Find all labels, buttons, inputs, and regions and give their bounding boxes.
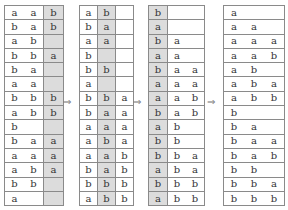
table-cell: a [244,134,264,148]
table-cell: b [224,106,245,120]
table-row: aba [80,134,134,148]
table-cell: b [168,177,187,191]
arrow-icon: ⇒ [133,96,141,107]
table-cell: b [244,191,264,205]
table-cell [264,120,285,134]
table-cell: a [5,6,25,20]
table-cell [44,77,64,91]
table-row: b [149,6,205,20]
table-cell: b [168,148,187,162]
table-cell: a [98,120,116,134]
table-cell [186,120,205,134]
table-cell: b [168,120,187,134]
table-cell: b [224,134,245,148]
table-cell: a [186,77,205,91]
table-cell: a [224,34,245,48]
table-step-2: abbaaabbbabbabaaaaaabaaabbabbbbabb [79,5,134,206]
table-cell: b [98,63,116,77]
table-cell: a [186,148,205,162]
table-cell: a [24,6,44,20]
table-cell: b [168,191,187,205]
table-cell: b [186,191,205,205]
table-cell: a [44,134,64,148]
table-cell: a [244,34,264,48]
table-cell [168,6,187,20]
table-cell: b [44,106,64,120]
table-cell [44,177,64,191]
table-row: abb [224,91,285,105]
table-cell: a [5,191,25,205]
table-cell: a [80,34,98,48]
table-row: aba [149,163,205,177]
table-cell: b [149,148,168,162]
table-cell: a [24,20,44,34]
table-cell: b [80,20,98,34]
table-step-4-sorted: aaaaaaaabababaabbbbabaababbbbbabbb [223,5,285,206]
table-cell: a [149,77,168,91]
table-row: ab [80,6,134,20]
table-cell: b [186,106,205,120]
table-cell [24,120,44,134]
table-cell: b [186,91,205,105]
table-step-1: aabbababbbabaaabbbabbbbaaaaaababba [4,5,64,206]
table-cell: a [116,91,134,105]
table-cell: b [224,120,245,134]
table-cell: b [24,91,44,105]
table-cell: a [224,63,245,77]
table-cell: a [149,191,168,205]
table-row: abb [5,106,64,120]
table-cell [186,6,205,20]
table-cell: b [80,91,98,105]
table-cell: a [5,34,25,48]
table-row: aaa [5,148,64,162]
table-row: bab [80,163,134,177]
table-cell [98,77,116,91]
table-step-3: babaaabaaaaaaabbababbbbbaababbbabb [148,5,205,206]
table-cell [44,191,64,205]
table-cell: a [80,77,98,91]
table-cell [186,48,205,62]
table-cell: a [80,148,98,162]
table-row: aab [224,48,285,62]
table-cell: a [24,148,44,162]
table-cell [264,6,285,20]
table-cell: b [244,63,264,77]
table-cell: a [98,34,116,48]
table-row: bb [80,63,134,77]
table-row: aab [5,6,64,20]
table-cell: a [24,134,44,148]
table-row: ba [149,34,205,48]
table-row: aa [149,48,205,62]
table-cell: b [116,191,134,205]
table-cell: a [116,120,134,134]
table-cell [186,20,205,34]
table-row: bba [149,148,205,162]
table-cell: b [168,163,187,177]
table-cell: a [186,63,205,77]
table-cell: b [98,191,116,205]
table-row: bba [80,91,134,105]
table-cell: a [168,48,187,62]
table-cell: b [224,163,245,177]
table-cell: a [168,63,187,77]
table-cell [264,163,285,177]
table-cell: b [80,177,98,191]
table-row: baa [5,134,64,148]
table-cell: b [24,106,44,120]
table-row: bab [149,106,205,120]
table-row: bab [5,20,64,34]
table-row: aa [80,34,134,48]
table-cell: b [80,48,98,62]
table-cell: a [98,163,116,177]
table-row: bb [149,134,205,148]
table-cell: b [168,134,187,148]
table-cell: b [149,34,168,48]
table-row: bb [224,163,285,177]
table-cell [116,48,134,62]
table-cell: b [80,163,98,177]
table-cell: b [149,106,168,120]
table-cell: b [224,177,245,191]
table-row: ba [5,63,64,77]
table-row: baa [80,106,134,120]
table-row: a [5,191,64,205]
